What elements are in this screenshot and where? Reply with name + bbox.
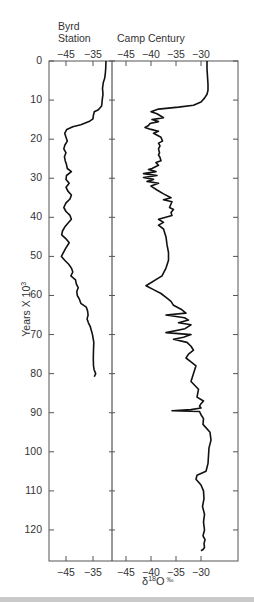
y-tick-label: 50 — [16, 250, 42, 261]
y-tick-label: 10 — [16, 94, 42, 105]
x-tick-label: −35 — [167, 49, 185, 60]
y-tick-label: 110 — [16, 485, 42, 496]
chart-svg — [0, 0, 254, 602]
y-tick-label: 30 — [16, 172, 42, 183]
y-tick-label: 120 — [16, 524, 42, 535]
y-tick-label: 100 — [16, 446, 42, 457]
y-tick-label: 80 — [16, 368, 42, 379]
bottom-band — [0, 597, 254, 602]
x-tick-label: −35 — [84, 567, 102, 578]
x-tick-label: −35 — [84, 49, 102, 60]
x-tick-label: −35 — [167, 567, 185, 578]
y-tick-label: 90 — [16, 407, 42, 418]
y-tick-label: 40 — [16, 211, 42, 222]
y-tick-label: 60 — [16, 289, 42, 300]
x-tick-label: −45 — [57, 49, 75, 60]
camp-century-curve — [144, 61, 212, 551]
y-tick-label: 70 — [16, 329, 42, 340]
x-tick-label: −45 — [57, 567, 75, 578]
x-tick-label: −40 — [142, 49, 160, 60]
x-tick-label: −45 — [117, 49, 135, 60]
y-tick-label: 0 — [16, 55, 42, 66]
x-tick-label: −40 — [142, 567, 160, 578]
byrd-station-curve — [61, 61, 106, 377]
y-tick-label: 20 — [16, 133, 42, 144]
x-tick-label: −30 — [192, 49, 210, 60]
x-tick-label: −45 — [117, 567, 135, 578]
x-tick-label: −30 — [192, 567, 210, 578]
plot-frame — [49, 61, 238, 561]
